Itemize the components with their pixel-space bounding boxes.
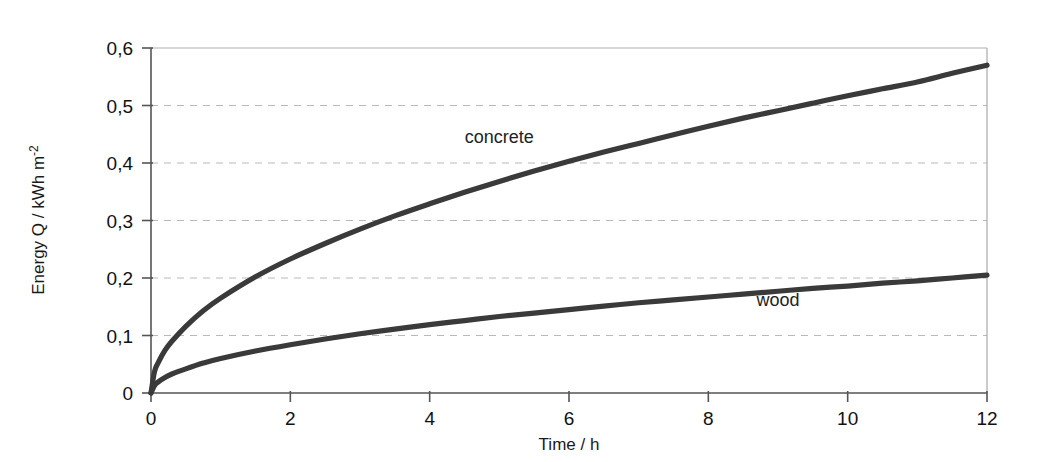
y-tick-label-6: 0,6	[107, 38, 133, 59]
y-axis-title: Energy Q / kWh m-2	[27, 145, 48, 295]
energy-vs-time-line-chart: 00,10,20,30,40,50,6 024681012 concretewo…	[0, 0, 1038, 462]
x-tick-label-6: 12	[976, 408, 997, 429]
chart-container: 00,10,20,30,40,50,6 024681012 concretewo…	[0, 0, 1038, 462]
x-tick-label-2: 4	[424, 408, 435, 429]
x-tick-label-0: 0	[146, 408, 157, 429]
series-label-concrete: concrete	[465, 127, 534, 147]
y-tick-label-0: 0	[122, 383, 133, 404]
x-tick-label-4: 8	[703, 408, 714, 429]
y-tick-label-5: 0,5	[107, 96, 133, 117]
y-tick-label-1: 0,1	[107, 326, 133, 347]
y-tick-label-3: 0,3	[107, 211, 133, 232]
y-tick-label-4: 0,4	[107, 153, 134, 174]
x-tick-label-3: 6	[564, 408, 575, 429]
y-axis-title-group: Energy Q / kWh m-2	[27, 145, 48, 295]
y-tick-label-2: 0,2	[107, 268, 133, 289]
x-tick-label-1: 2	[285, 408, 296, 429]
x-axis-title: Time / h	[539, 435, 600, 454]
series-label-wood: wood	[755, 290, 799, 310]
x-tick-label-5: 10	[837, 408, 858, 429]
